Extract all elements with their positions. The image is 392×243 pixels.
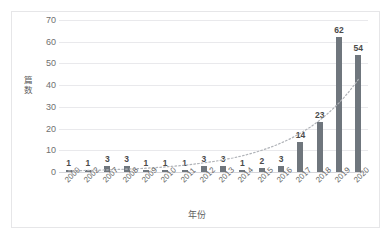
bar-value-label: 3 — [124, 154, 129, 164]
bar-slot: 1 — [59, 20, 78, 172]
bar-slot: 3 — [98, 20, 117, 172]
bar-value-label: 54 — [354, 43, 363, 53]
bar-slot: 3 — [271, 20, 290, 172]
y-axis-tick-labels: 010203040506070 — [20, 20, 56, 172]
bar-value-label: 2 — [259, 156, 264, 166]
x-axis-title: 年份 — [12, 208, 381, 221]
bar-value-label: 3 — [105, 154, 110, 164]
bar-value-label: 23 — [315, 110, 324, 120]
y-axis-tick-label: 60 — [26, 37, 56, 47]
bar-slot: 3 — [117, 20, 136, 172]
bar-slot: 1 — [136, 20, 155, 172]
bar-slot: 3 — [214, 20, 233, 172]
bar-value-label: 3 — [201, 154, 206, 164]
bar-slot: 54 — [349, 20, 368, 172]
bar-value-label: 3 — [279, 154, 284, 164]
bar-slot: 2 — [252, 20, 271, 172]
chart-frame: 篇数 010203040506070 11331113312314236254 … — [11, 11, 380, 228]
bar — [355, 55, 361, 172]
bar-value-label: 1 — [240, 158, 245, 168]
bar-slot: 62 — [329, 20, 348, 172]
y-axis-tick-label: 20 — [26, 124, 56, 134]
y-axis-tick-label: 50 — [26, 58, 56, 68]
bar-value-label: 62 — [334, 25, 343, 35]
bar — [317, 122, 323, 172]
bar-value-label: 14 — [296, 130, 305, 140]
y-axis-tick-label: 70 — [26, 15, 56, 25]
x-axis-tick-labels: 2000200220072008200920102011201220132014… — [59, 175, 368, 209]
bar-slot: 1 — [175, 20, 194, 172]
y-axis-tick-label: 40 — [26, 80, 56, 90]
bar-value-label: 1 — [66, 158, 71, 168]
bar-value-label: 1 — [163, 158, 168, 168]
bar — [336, 37, 342, 172]
bar — [297, 142, 303, 172]
bar-slot: 23 — [310, 20, 329, 172]
y-axis-tick-label: 10 — [26, 145, 56, 155]
bar-value-label: 1 — [86, 158, 91, 168]
y-axis-tick-label: 30 — [26, 102, 56, 112]
bar-slot: 1 — [78, 20, 97, 172]
bar-value-label: 1 — [182, 158, 187, 168]
bar-slot: 1 — [156, 20, 175, 172]
plot-area: 11331113312314236254 — [59, 20, 368, 172]
bar-value-label: 1 — [144, 158, 149, 168]
bar-slot: 1 — [233, 20, 252, 172]
bar-slot: 14 — [291, 20, 310, 172]
y-axis-tick-label: 0 — [26, 167, 56, 177]
bar-slot: 3 — [194, 20, 213, 172]
bar-series: 11331113312314236254 — [59, 20, 368, 172]
bar-value-label: 3 — [221, 154, 226, 164]
